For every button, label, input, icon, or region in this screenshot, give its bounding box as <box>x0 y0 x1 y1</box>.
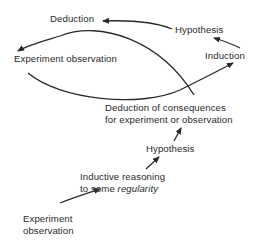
label-inductive-line1: Inductive reasoning <box>80 171 165 183</box>
label-induction: Induction <box>205 50 245 62</box>
label-deduction: Deduction <box>50 13 94 25</box>
label-experiment-observation-ladder: Experiment observation <box>23 213 74 237</box>
label-experiment-line2: observation <box>23 225 74 237</box>
arrow-inductive-to-hypothesis <box>146 157 159 169</box>
label-inductive-reasoning: Inductive reasoning to some regularity <box>80 171 165 195</box>
label-experiment-line1: Experiment <box>23 213 74 225</box>
label-inductive-prefix: to some <box>80 183 118 194</box>
label-inductive-line2: to some regularity <box>80 183 165 195</box>
label-deduction-consequences-line2: for experiment or observation <box>105 114 233 126</box>
arrow-induction-to-hypothesis <box>214 38 240 48</box>
arrow-hypothesis-to-deduction <box>103 21 172 29</box>
label-experiment-observation-cycle: Experiment observation <box>14 53 117 65</box>
arrow-observation-to-induction <box>28 63 233 100</box>
label-deduction-consequences-line1: Deduction of consequences <box>105 102 233 114</box>
label-hypothesis-cycle: Hypothesis <box>175 24 223 36</box>
label-deduction-consequences: Deduction of consequences for experiment… <box>105 102 233 126</box>
label-hypothesis-ladder: Hypothesis <box>146 143 194 155</box>
label-regularity: regularity <box>118 183 158 194</box>
arrow-hypothesis-to-consequences <box>174 128 181 141</box>
